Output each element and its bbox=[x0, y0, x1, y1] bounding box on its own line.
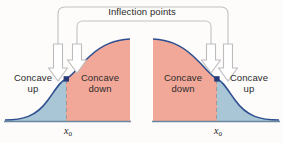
left-inflection-point-marker bbox=[64, 76, 69, 81]
right-x0-subscript: 0 bbox=[218, 130, 222, 138]
left-x0-axis-label: x0 bbox=[59, 125, 77, 138]
left-concave-up-label: Concave up bbox=[5, 72, 61, 94]
inflection-points-title: Inflection points bbox=[96, 6, 188, 17]
right-concave-down-label: Concave down bbox=[154, 72, 212, 94]
right-inflection-point-marker bbox=[214, 76, 219, 81]
left-concave-down-label: Concave down bbox=[71, 72, 129, 94]
right-concave-up-label: Concave up bbox=[221, 72, 277, 94]
inflection-points-figure: Inflection points Concave up Concave dow… bbox=[0, 0, 283, 143]
left-x0-subscript: 0 bbox=[68, 130, 72, 138]
right-x0-axis-label: x0 bbox=[209, 125, 227, 138]
